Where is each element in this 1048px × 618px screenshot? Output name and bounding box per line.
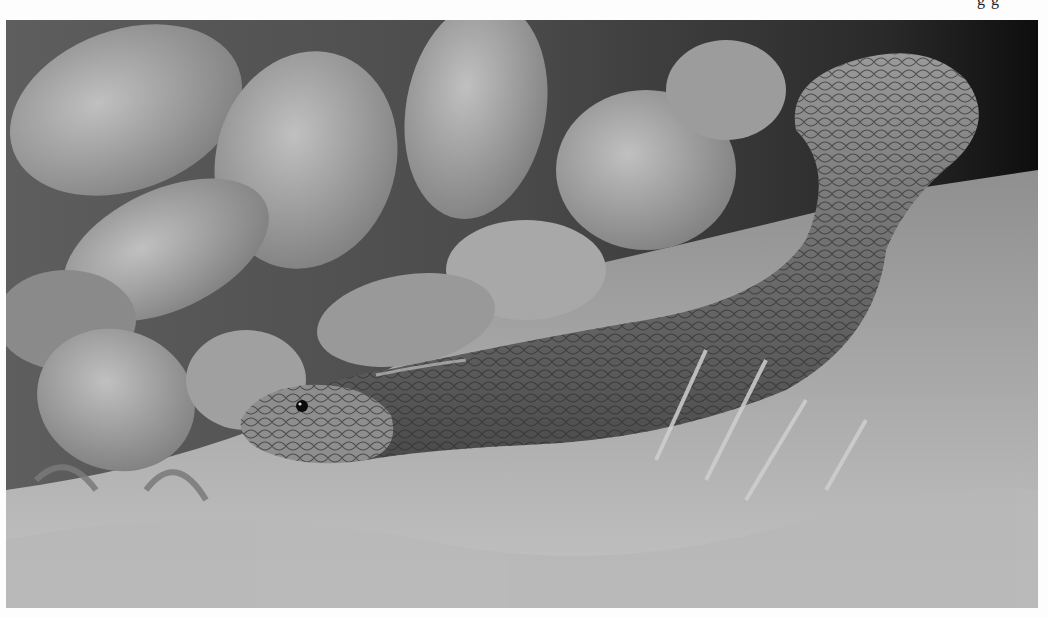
- snake-photo: [6, 20, 1038, 608]
- snake-photo-illustration: [6, 20, 1038, 608]
- page: g g: [0, 0, 1048, 618]
- snake-eye: [296, 400, 308, 412]
- cut-off-heading-text: g g: [977, 0, 1000, 9]
